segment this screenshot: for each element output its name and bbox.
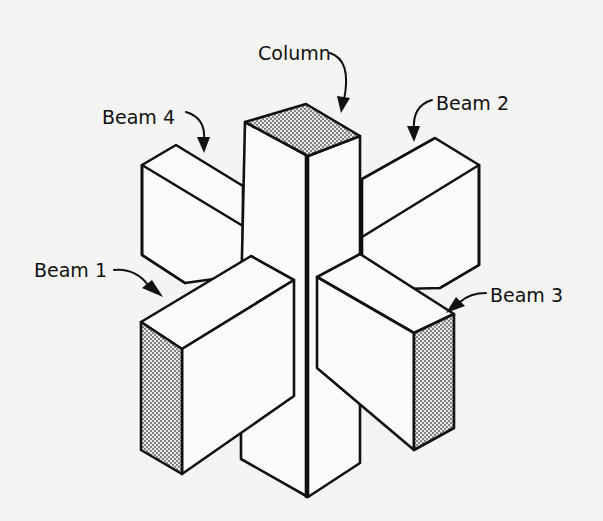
svg-text:Beam 1: Beam 1 [34, 259, 107, 281]
label-beam-3: Beam 3 [446, 284, 563, 313]
svg-text:Column: Column [258, 42, 331, 64]
svg-text:Beam 2: Beam 2 [436, 92, 509, 114]
beam-4 [142, 145, 243, 283]
column-beam-diagram: Column Beam 4 Beam 2 Beam 1 Beam 3 [0, 0, 603, 521]
label-column: Column [258, 42, 350, 113]
arrow-icon [407, 126, 420, 142]
svg-text:Beam 4: Beam 4 [102, 106, 175, 128]
label-beam-2: Beam 2 [407, 92, 509, 142]
arrow-icon [337, 96, 350, 113]
label-beam-1: Beam 1 [34, 259, 163, 297]
svg-text:Beam 3: Beam 3 [490, 284, 563, 306]
arrow-icon [197, 137, 210, 153]
beam-3-end-face [414, 314, 454, 450]
label-beam-4: Beam 4 [102, 106, 210, 153]
beam-1-end-face [141, 322, 182, 474]
